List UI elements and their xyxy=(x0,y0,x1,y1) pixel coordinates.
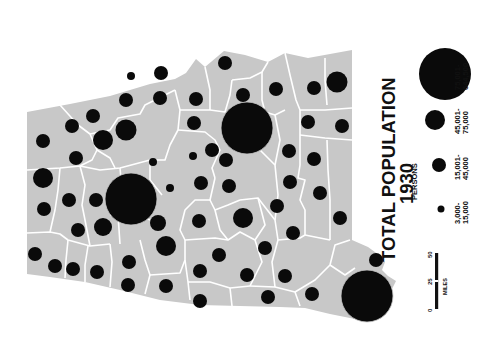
legend-label-1-line2: 15,000 xyxy=(461,201,470,224)
county-population-dot xyxy=(48,259,62,273)
county-population-dot xyxy=(307,152,321,166)
legend-heading-text: PERSONS xyxy=(410,163,419,200)
county-population-dot xyxy=(313,186,327,200)
county-population-dot xyxy=(258,241,272,255)
legend-label-class-4: 75,001- 644,500 xyxy=(453,63,470,90)
county-population-dot xyxy=(116,120,137,141)
county-population-dot xyxy=(154,66,168,80)
county-population-dot xyxy=(283,175,297,189)
county-population-dot xyxy=(286,226,300,240)
county-population-dot xyxy=(282,144,296,158)
county-population-dot xyxy=(218,56,232,70)
legend-circle-class-1 xyxy=(438,206,445,213)
county-population-dot xyxy=(156,236,176,256)
legend-label-4-line2: 644,500 xyxy=(461,63,470,90)
scale-bar-gap xyxy=(435,280,438,282)
scale-unit: MILES xyxy=(442,278,448,295)
county-population-dot xyxy=(71,223,85,237)
county-population-dot xyxy=(270,199,284,213)
county-population-dot xyxy=(105,173,157,225)
county-population-dot xyxy=(192,214,206,228)
county-population-dot xyxy=(159,279,173,293)
legend-circle-class-3 xyxy=(425,110,445,130)
county-population-dot xyxy=(189,92,203,106)
population-map: TOTAL POPULATION 1930 PERSONS 3,000- 15,… xyxy=(0,0,496,339)
county-population-dot xyxy=(187,116,201,130)
scale-tick-0: 0 xyxy=(427,308,433,312)
county-population-dot xyxy=(119,93,133,107)
county-population-dot xyxy=(222,179,236,193)
scale-bar: 0 25 50 MILES xyxy=(427,251,448,312)
county-population-dot xyxy=(86,109,100,123)
county-population-dot xyxy=(69,151,83,165)
legend-label-2-line2: 45,000 xyxy=(461,157,470,180)
county-population-dot xyxy=(150,215,166,231)
county-population-dot xyxy=(93,130,113,150)
county-population-dot xyxy=(121,278,135,292)
county-population-dot xyxy=(307,81,321,95)
county-population-dot xyxy=(122,255,136,269)
county-population-dot xyxy=(335,119,349,133)
county-population-dot xyxy=(149,158,157,166)
county-population-dot xyxy=(240,268,254,282)
county-population-dot xyxy=(221,102,273,154)
legend-label-class-3: 45,001- 75,000 xyxy=(453,108,470,134)
legend-label-class-2: 15,001- 45,000 xyxy=(453,154,470,180)
county-population-dot xyxy=(327,72,348,93)
county-population-dot xyxy=(66,262,80,276)
legend-label-class-1: 3,000- 15,000 xyxy=(453,201,470,224)
scale-tick-25: 25 xyxy=(427,278,433,285)
county-population-dot xyxy=(193,264,207,278)
county-population-dot xyxy=(305,287,319,301)
county-population-dot xyxy=(278,269,292,283)
county-population-dot xyxy=(341,270,393,322)
county-population-dot xyxy=(94,218,112,236)
county-population-dot xyxy=(301,115,315,129)
county-population-dot xyxy=(269,82,283,96)
county-population-dot xyxy=(236,88,250,102)
legend-label-3-line2: 75,000 xyxy=(461,111,470,134)
county-population-dot xyxy=(219,153,233,167)
county-population-dot xyxy=(205,143,219,157)
county-population-dot xyxy=(233,208,253,228)
county-population-dot xyxy=(89,193,103,207)
county-population-dot xyxy=(193,294,207,308)
county-population-dot xyxy=(189,152,197,160)
county-population-dot xyxy=(36,134,50,148)
county-population-dot xyxy=(194,176,208,190)
county-population-dot xyxy=(153,91,167,105)
county-population-dot xyxy=(166,184,174,192)
county-population-dot xyxy=(62,193,76,207)
scale-tick-50: 50 xyxy=(427,251,433,258)
county-population-dot xyxy=(261,290,275,304)
county-population-dot xyxy=(37,202,51,216)
county-population-dot xyxy=(33,168,53,188)
county-population-dot xyxy=(28,247,42,261)
county-population-dot xyxy=(212,248,226,262)
legend-heading: PERSONS xyxy=(410,163,419,200)
county-population-dot xyxy=(90,265,104,279)
legend-circle-class-2 xyxy=(432,158,446,172)
county-population-dot xyxy=(333,211,347,225)
county-population-dot xyxy=(127,72,135,80)
county-population-dot xyxy=(65,119,79,133)
